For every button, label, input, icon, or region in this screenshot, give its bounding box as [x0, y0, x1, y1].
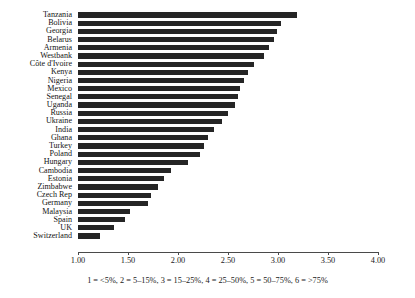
bar-row: Switzerland	[78, 232, 378, 240]
bar-row: Bolivia	[78, 19, 378, 27]
bar-row: Malaysia	[78, 208, 378, 216]
bar	[78, 12, 297, 17]
bar	[78, 225, 114, 230]
bar-row: Belarus	[78, 36, 378, 44]
x-axis-tick	[378, 252, 379, 255]
bar	[78, 143, 204, 148]
x-axis-tick-label: 2.50	[221, 256, 236, 265]
bar	[78, 127, 214, 132]
bar-row: Turkey	[78, 142, 378, 150]
bar-row: Ghana	[78, 134, 378, 142]
chart-caption: 1 = <5%, 2 = 5–15%, 3 = 15–25%, 4 = 25–5…	[0, 276, 415, 286]
x-axis-tick	[328, 252, 329, 255]
bar	[78, 53, 264, 58]
bar-row: Estonia	[78, 175, 378, 183]
bar-row: Nigeria	[78, 77, 378, 85]
x-axis-tick-label: 4.00	[371, 256, 386, 265]
bar	[78, 102, 235, 107]
bar	[78, 217, 125, 222]
bar-row: Poland	[78, 150, 378, 158]
bar-row: Cambodia	[78, 167, 378, 175]
bar	[78, 193, 151, 198]
bar	[78, 86, 240, 91]
bar-row: Tanzania	[78, 11, 378, 19]
bar	[78, 152, 200, 157]
x-axis-tick	[278, 252, 279, 255]
bar-row: Spain	[78, 216, 378, 224]
bar	[78, 21, 281, 26]
x-axis-tick-label: 1.00	[71, 256, 86, 265]
bar-row: Hungary	[78, 158, 378, 166]
bar	[78, 94, 238, 99]
bar	[78, 201, 148, 206]
bar	[78, 184, 158, 189]
bar	[78, 45, 269, 50]
bar-row: Ukraine	[78, 117, 378, 125]
bar	[78, 111, 228, 116]
bar-row: Russia	[78, 109, 378, 117]
bar-row: Westbank	[78, 52, 378, 60]
bar-row: Armenia	[78, 44, 378, 52]
bar	[78, 62, 254, 67]
bar-row: Germany	[78, 199, 378, 207]
bar	[78, 70, 248, 75]
bar-row: Mexico	[78, 85, 378, 93]
bar-row: Zimbabwe	[78, 183, 378, 191]
bar-chart: TanzaniaBoliviaGeorgiaBelarusArmeniaWest…	[0, 0, 415, 298]
bar-row: UK	[78, 224, 378, 232]
x-axis-tick-label: 1.50	[121, 256, 136, 265]
x-axis-tick-label: 3.00	[271, 256, 286, 265]
bar	[78, 233, 100, 238]
bar	[78, 160, 188, 165]
bar	[78, 119, 222, 124]
bar	[78, 176, 164, 181]
bar	[78, 168, 171, 173]
bar	[78, 29, 277, 34]
x-axis-tick	[128, 252, 129, 255]
x-axis-tick-label: 3.50	[321, 256, 336, 265]
x-axis-tick	[228, 252, 229, 255]
bar	[78, 78, 244, 83]
bar	[78, 37, 274, 42]
bar-row: India	[78, 126, 378, 134]
bar-row: Georgia	[78, 27, 378, 35]
x-axis-tick	[178, 252, 179, 255]
bar-row: Côte d'Ivoire	[78, 60, 378, 68]
x-axis-tick-label: 2.00	[171, 256, 186, 265]
bar	[78, 135, 208, 140]
x-axis-tick	[78, 252, 79, 255]
bar-row: Senegal	[78, 93, 378, 101]
bar-row: Uganda	[78, 101, 378, 109]
bar-row: Kenya	[78, 68, 378, 76]
plot-area: TanzaniaBoliviaGeorgiaBelarusArmeniaWest…	[78, 11, 378, 251]
bar	[78, 209, 130, 214]
y-axis-label: Switzerland	[0, 232, 72, 240]
bar-row: Czech Rep	[78, 191, 378, 199]
